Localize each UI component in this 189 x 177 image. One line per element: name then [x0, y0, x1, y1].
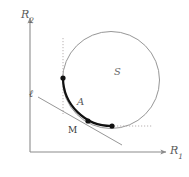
x-axis-label: R1	[170, 145, 183, 159]
y-axis-label: R2	[21, 9, 34, 23]
arc-end-point	[109, 123, 114, 128]
circle-boundary-s	[63, 32, 160, 129]
y-axis-label-subscript: 2	[29, 16, 34, 25]
set-label-s: S	[114, 67, 121, 77]
arc-start-point	[60, 75, 65, 80]
math-figure-canvas: R2 R1 S A M ℓ	[0, 0, 189, 177]
line-label-ell: ℓ	[29, 89, 33, 99]
point-label-m: M	[68, 126, 77, 135]
x-axis-label-subscript: 1	[178, 152, 183, 161]
arc-label-a: A	[77, 97, 84, 107]
point-m-marker	[85, 118, 90, 123]
